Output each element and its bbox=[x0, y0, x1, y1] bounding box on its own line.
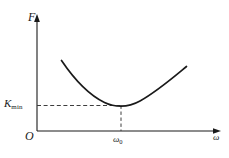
x-axis-label: ω bbox=[213, 133, 219, 142]
figure-container: F O ω Kmin ω0 bbox=[0, 0, 229, 158]
origin-label: O bbox=[25, 130, 34, 142]
k-min-subscript: min bbox=[11, 103, 22, 111]
y-axis-label: F bbox=[28, 11, 35, 23]
k-min-label: Kmin bbox=[4, 98, 23, 109]
omega-zero-subscript: 0 bbox=[119, 138, 122, 145]
omega-zero-label: ω0 bbox=[113, 135, 123, 144]
f-curve bbox=[62, 61, 187, 107]
